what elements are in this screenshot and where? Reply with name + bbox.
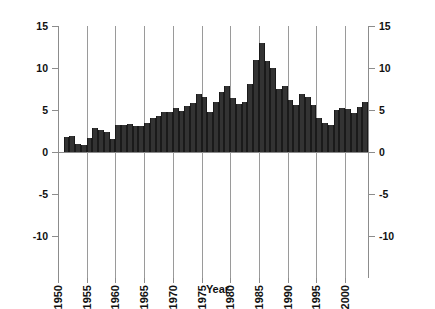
y-tick-label-left: 10 bbox=[8, 63, 48, 73]
y-tick-label-left: 15 bbox=[8, 21, 48, 31]
y-tick-label-right: 0 bbox=[379, 147, 419, 157]
y-tick-right bbox=[368, 110, 375, 111]
gridline bbox=[288, 152, 289, 278]
gridline bbox=[87, 152, 88, 278]
y-tick-left bbox=[52, 110, 59, 111]
y-tick-right bbox=[368, 152, 375, 153]
gridline bbox=[259, 152, 260, 278]
y-tick-label-left: -5 bbox=[8, 189, 48, 199]
gridline bbox=[345, 152, 346, 278]
y-tick-left bbox=[52, 194, 59, 195]
y-tick-left bbox=[52, 236, 59, 237]
y-tick-left bbox=[52, 152, 59, 153]
y-tick-label-right: 5 bbox=[379, 105, 419, 115]
gridline bbox=[173, 152, 174, 278]
gridline bbox=[316, 152, 317, 278]
bars-group bbox=[58, 26, 368, 152]
y-tick-left bbox=[52, 68, 59, 69]
y-tick-label-right: 15 bbox=[379, 21, 419, 31]
x-axis-title: Year bbox=[0, 283, 435, 295]
gridline bbox=[144, 152, 145, 278]
y-tick-right bbox=[368, 194, 375, 195]
gridline bbox=[230, 152, 231, 278]
gridline bbox=[202, 152, 203, 278]
y-tick-right bbox=[368, 236, 375, 237]
y-tick-left bbox=[52, 26, 59, 27]
y-tick-right bbox=[368, 68, 375, 69]
y-tick-label-right: -5 bbox=[379, 189, 419, 199]
y-tick-label-right: 10 bbox=[379, 63, 419, 73]
y-tick-label-left: 0 bbox=[8, 147, 48, 157]
y-tick-right bbox=[368, 26, 375, 27]
y-tick-label-left: 5 bbox=[8, 105, 48, 115]
y-tick-label-left: -10 bbox=[8, 231, 48, 241]
plot-area bbox=[58, 26, 368, 152]
y-tick-label-right: -10 bbox=[379, 231, 419, 241]
zero-baseline bbox=[58, 152, 368, 153]
gridline bbox=[115, 152, 116, 278]
